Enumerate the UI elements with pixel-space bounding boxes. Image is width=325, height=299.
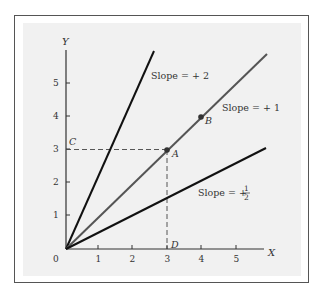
slope-diagram: 0 1 2 3 4 5 1 2 3 4 5 Y X A B C D Slope … — [0, 0, 325, 299]
origin-label: 0 — [53, 254, 59, 264]
point-a-label: A — [171, 148, 179, 159]
x-tick-label-5: 5 — [234, 254, 240, 264]
x-tick-label-1: 1 — [96, 254, 102, 264]
slope-2-label: Slope = + 2 — [151, 70, 209, 81]
y-tick-label-2: 2 — [53, 177, 59, 187]
point-c-label: C — [69, 136, 77, 147]
y-tick-label-3: 3 — [53, 144, 59, 154]
point-b-label: B — [204, 115, 212, 126]
slope-half-numerator: 1 — [244, 184, 249, 193]
slope-1-label: Slope = + 1 — [222, 102, 280, 113]
slope-half-denominator: 2 — [244, 193, 249, 202]
x-axis-label: X — [267, 247, 276, 258]
slope-half-label: Slope = + — [198, 187, 247, 198]
point-a-marker — [164, 147, 170, 153]
y-tick-label-1: 1 — [53, 210, 59, 220]
y-axis-label: Y — [62, 36, 70, 47]
x-tick-label-4: 4 — [199, 254, 205, 264]
line-slope-half — [66, 148, 266, 249]
y-tick-label-4: 4 — [53, 111, 59, 121]
point-b-marker — [198, 114, 204, 120]
x-tick-label-3: 3 — [165, 254, 171, 264]
point-d-label: D — [170, 239, 179, 250]
x-tick-label-2: 2 — [130, 254, 136, 264]
y-tick-label-5: 5 — [53, 78, 59, 88]
line-slope-2 — [66, 51, 154, 249]
